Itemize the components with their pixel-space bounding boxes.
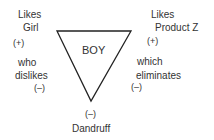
label-likes-product: Likes [151, 9, 174, 20]
center-label-boy: BOY [82, 45, 105, 56]
label-dislikes: dislikes [15, 70, 48, 81]
sign-dislikes: (–) [34, 83, 45, 94]
label-eliminates: eliminates [136, 70, 181, 81]
label-product-z: Product Z [155, 22, 198, 33]
sign-dandruff: (–) [85, 109, 96, 120]
label-likes: Likes [18, 9, 41, 20]
sign-girl: (+) [13, 38, 24, 49]
label-girl: Girl [23, 22, 39, 33]
sign-eliminates: (–) [131, 82, 142, 93]
sign-product: (+) [147, 36, 158, 47]
label-which: which [137, 56, 163, 67]
label-who: who [18, 57, 36, 68]
label-dandruff: Dandruff [72, 123, 110, 134]
